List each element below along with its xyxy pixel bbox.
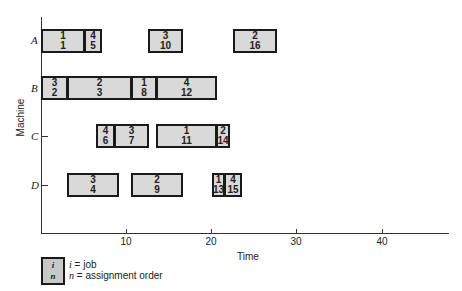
row-label-b: B [31,82,38,94]
x-tick-10 [126,229,127,233]
row-tick [42,185,48,186]
assignment-order: 14 [217,136,228,146]
task-bar: 11 [41,29,85,53]
legend-text: i = job n = assignment order [69,259,163,281]
task-bar: 32 [41,76,68,100]
assignment-order: 9 [154,185,160,195]
x-tick-label: 20 [205,236,216,247]
x-tick-20 [211,229,212,233]
gantt-chart: 10 20 30 40 Time Machine A B C D 1145310… [0,0,462,291]
assignment-order: 10 [160,41,171,51]
task-bar: 23 [67,76,132,100]
task-bar: 46 [96,124,115,148]
task-bar: 412 [156,76,217,100]
x-tick-30 [296,229,297,233]
task-bar: 37 [114,124,149,148]
x-tick-label: 40 [376,236,387,247]
assignment-order: 12 [181,88,192,98]
legend-line-order: n = assignment order [69,270,163,281]
assignment-order: 7 [129,136,135,146]
row-label-a: A [31,34,38,46]
assignment-order: 11 [181,136,192,146]
row-tick [42,136,48,137]
legend-swatch-bottom: n [50,271,55,282]
legend-swatch-top: i [52,260,55,271]
assignment-order: 1 [60,41,66,51]
x-axis [41,233,449,234]
assignment-order: 15 [227,185,238,195]
x-tick-40 [382,229,383,233]
assignment-order: 3 [97,88,103,98]
assignment-order: 6 [103,136,109,146]
row-label-c: C [31,130,38,142]
legend-swatch: i n [41,257,65,285]
assignment-order: 2 [52,88,58,98]
task-bar: 415 [224,173,242,197]
assignment-order: 4 [90,185,96,195]
assignment-order: 5 [90,41,96,51]
task-bar: 111 [156,124,217,148]
y-axis-label: Machine [15,96,26,140]
task-bar: 29 [131,173,183,197]
task-bar: 45 [84,29,102,53]
task-bar: 214 [216,124,230,148]
task-bar: 310 [148,29,183,53]
assignment-order: 8 [141,88,147,98]
assignment-order: 16 [249,41,260,51]
task-bar: 34 [67,173,119,197]
assignment-order: 13 [213,185,224,195]
task-bar: 216 [233,29,277,53]
x-axis-label: Time [237,251,259,262]
row-label-d: D [31,179,39,191]
x-tick-label: 30 [290,236,301,247]
task-bar: 18 [131,76,157,100]
legend-line-job: i = job [69,259,163,270]
x-tick-label: 10 [120,236,131,247]
